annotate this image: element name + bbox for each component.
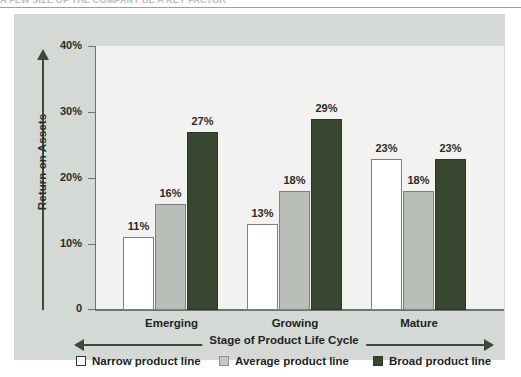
y-tick-10 <box>88 244 95 245</box>
x-category-label-growing: Growing <box>270 317 320 329</box>
x-axis-title-group: Stage of Product Life Cycle <box>74 336 494 352</box>
x-category-label-emerging: Emerging <box>145 317 197 329</box>
bar-emerging-average <box>155 204 186 310</box>
bar-growing-broad <box>311 119 342 310</box>
bar-mature-broad <box>435 159 466 310</box>
legend-label-broad: Broad product line <box>389 355 491 367</box>
bar-emerging-broad <box>187 132 218 310</box>
legend-swatch-average-icon <box>219 356 229 366</box>
horizontal-rule <box>0 7 521 8</box>
y-tick-20 <box>88 178 95 179</box>
legend-item-narrow: Narrow product line <box>76 355 201 367</box>
legend-item-broad: Broad product line <box>373 355 491 367</box>
y-tick-30 <box>88 112 95 113</box>
bar-growing-narrow <box>247 224 278 310</box>
chart-figure-panel: 40% 30% 20% 10% 0 Return on Assets 11% 1… <box>14 14 505 360</box>
bar-emerging-narrow <box>123 237 154 310</box>
y-axis-title-group: Return on Assets <box>31 46 55 310</box>
legend-swatch-broad-icon <box>373 356 383 366</box>
legend-label-average: Average product line <box>235 355 349 367</box>
bar-label-emerging-broad: 27% <box>177 115 228 127</box>
legend-item-average: Average product line <box>219 355 349 367</box>
x-axis-title: Stage of Product Life Cycle <box>202 334 366 346</box>
bar-label-mature-broad: 23% <box>425 142 476 154</box>
legend-label-narrow: Narrow product line <box>92 355 201 367</box>
bar-growing-average <box>279 191 310 310</box>
cut-off-heading-label: A FEW SIZE OF THE COMPANY BE A KEY FACTO… <box>0 0 521 5</box>
cut-off-heading-text: A FEW SIZE OF THE COMPANY BE A KEY FACTO… <box>0 0 521 7</box>
y-axis-title: Return on Assets <box>36 67 48 257</box>
y-tick-0 <box>88 309 95 310</box>
legend-swatch-narrow-icon <box>76 356 86 366</box>
x-category-label-mature: Mature <box>395 317 443 329</box>
bar-label-mature-narrow: 23% <box>361 142 412 154</box>
chart-legend: Narrow product line Average product line… <box>76 355 496 373</box>
bar-label-growing-broad: 29% <box>301 102 352 114</box>
x-axis-arrow-right-icon <box>484 339 494 351</box>
y-axis-line <box>95 46 96 310</box>
y-tick-40 <box>88 46 95 47</box>
bar-mature-average <box>403 191 434 310</box>
